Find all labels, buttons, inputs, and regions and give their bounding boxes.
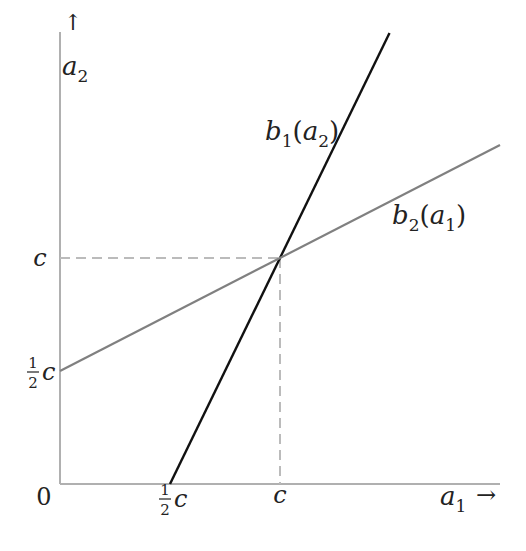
x-tick-half-num: 1: [160, 481, 170, 499]
x-tick-label-c: c: [273, 481, 286, 509]
series-label-b1-paren-close: ): [329, 116, 339, 146]
y-tick-label-c: c: [33, 244, 46, 272]
series-label-b2-base: b: [392, 200, 409, 230]
y-tick-label-half-c: 1 2 c: [27, 354, 55, 392]
y-axis-label-base: a: [62, 51, 78, 81]
origin-label: 0: [36, 483, 51, 511]
series-label-b1-arg: a: [303, 116, 319, 146]
x-tick-half-var: c: [174, 485, 187, 513]
series-label-b1-arg-sub: 2: [318, 131, 329, 151]
y-axis-arrow-icon: ↑: [64, 10, 82, 35]
series-label-b2-arg-sub: 1: [445, 215, 456, 235]
x-tick-label-half-c: 1 2 c: [159, 481, 187, 519]
series-label-b1-paren-open: (: [292, 116, 302, 146]
y-axis-label: a2: [62, 51, 88, 86]
x-axis-label: a1: [440, 481, 466, 516]
series-label-b2: b2(a1): [392, 200, 466, 235]
series-label-b1-base: b: [265, 116, 282, 146]
series-label-b1: b1(a2): [265, 116, 339, 151]
x-axis-arrow-icon: →: [476, 481, 496, 509]
x-axis-label-sub: 1: [456, 496, 467, 516]
series-label-b2-paren-close: ): [456, 200, 466, 230]
y-tick-half-var: c: [42, 358, 55, 386]
y-tick-half-num: 1: [28, 354, 38, 372]
x-axis-label-base: a: [440, 481, 456, 511]
series-label-b2-sub: 2: [409, 215, 420, 235]
series-label-b2-paren-open: (: [419, 200, 429, 230]
series-label-b2-arg: a: [430, 200, 446, 230]
y-axis-label-sub: 2: [78, 66, 89, 86]
best-response-diagram: ↑ a2 a1 → 0 1 2 c c c 1 2 c b1(a2) b2(a1…: [0, 0, 526, 551]
y-tick-half-den: 2: [28, 374, 38, 392]
series-label-b1-sub: 1: [282, 131, 293, 151]
x-tick-half-den: 2: [160, 501, 170, 519]
